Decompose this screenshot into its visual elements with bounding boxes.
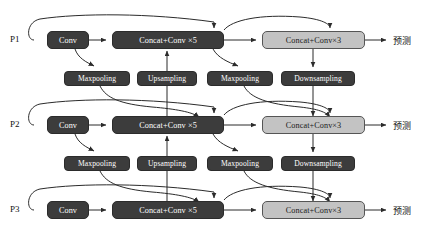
row1-conv-node: Conv bbox=[47, 31, 89, 49]
row-input-label-p1: P1 bbox=[10, 34, 20, 44]
row-input-label-p3: P3 bbox=[10, 204, 20, 214]
row-input-label-p2: P2 bbox=[10, 119, 20, 129]
row1-output-label: 预测 bbox=[393, 34, 411, 47]
row2-concat-conv-3-node: Concat+Conv×3 bbox=[262, 116, 365, 134]
band2-downsampling-node: Downsampling bbox=[281, 156, 355, 171]
row2-output-label: 预测 bbox=[393, 119, 411, 132]
row2-concat-conv-5-node: Concat+Conv ×5 bbox=[112, 116, 224, 134]
band2-upsampling-node: Upsampling bbox=[137, 156, 197, 171]
row3-conv-node: Conv bbox=[47, 201, 89, 219]
row3-output-label: 预测 bbox=[393, 204, 411, 217]
band1-maxpooling-right-node: Maxpooling bbox=[207, 71, 273, 86]
band1-maxpooling-left-node: Maxpooling bbox=[64, 71, 130, 86]
row1-concat-conv-5-node: Concat+Conv ×5 bbox=[112, 31, 224, 49]
row2-conv-node: Conv bbox=[47, 116, 89, 134]
row3-concat-conv-3-node: Concat+Conv×3 bbox=[262, 201, 365, 219]
row1-concat-conv-3-node: Concat+Conv×3 bbox=[262, 31, 365, 49]
row3-concat-conv-5-node: Concat+Conv ×5 bbox=[112, 201, 224, 219]
band1-upsampling-node: Upsampling bbox=[137, 71, 197, 86]
band2-maxpooling-right-node: Maxpooling bbox=[207, 156, 273, 171]
band1-downsampling-node: Downsampling bbox=[281, 71, 355, 86]
band2-maxpooling-left-node: Maxpooling bbox=[64, 156, 130, 171]
network-architecture-diagram: P1 Conv Concat+Conv ×5 Concat+Conv×3 预测 … bbox=[0, 0, 422, 247]
